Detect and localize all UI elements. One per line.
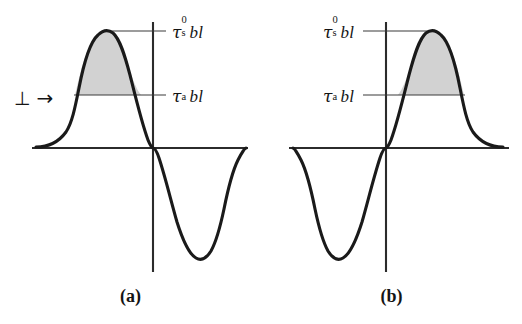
panel-b-caption: (b) [261, 286, 522, 307]
subscript-a: a [332, 92, 337, 103]
panel-a-caption: (a) [0, 286, 261, 307]
bl-term: bl [340, 23, 354, 42]
tau-glyph: τ [172, 22, 181, 42]
panel-b-peak-label: τ0sbl [323, 21, 354, 41]
subscript-a: a [181, 92, 186, 103]
tau-glyph: τ [172, 86, 181, 106]
bl-term: bl [189, 87, 203, 106]
panel-b-plot [261, 0, 522, 324]
panel-b: τ0sbl τabl (b) [261, 0, 522, 324]
panel-a-applied-label: τabl [172, 85, 203, 105]
panel-a-plot [0, 0, 261, 324]
figure-root: ⊥→ τ0sbl τabl (a) [0, 0, 522, 324]
superscript-zero: 0 [332, 15, 337, 26]
tau-applied-indices: a [332, 85, 340, 102]
superscript-zero: 0 [181, 15, 186, 26]
tau-applied-indices: a [181, 85, 189, 102]
bl-term: bl [189, 23, 203, 42]
right-arrow-icon: → [37, 86, 54, 110]
panel-a-peak-label: τ0sbl [172, 21, 203, 41]
bl-term: bl [340, 87, 354, 106]
tau-peak-indices: 0s [181, 21, 189, 38]
perpendicular-icon: ⊥ [14, 87, 31, 109]
tau-peak-indices: 0s [332, 21, 340, 38]
tau-glyph: τ [323, 22, 332, 42]
subscript-s: s [181, 28, 185, 39]
dislocation-marker-a: ⊥→ [14, 88, 53, 108]
tau-glyph: τ [323, 86, 332, 106]
panel-a-force-curve [36, 31, 246, 260]
panel-b-force-curve [293, 31, 503, 260]
panel-b-applied-label: τabl [323, 85, 354, 105]
subscript-s: s [332, 28, 336, 39]
panel-a: ⊥→ τ0sbl τabl (a) [0, 0, 261, 324]
